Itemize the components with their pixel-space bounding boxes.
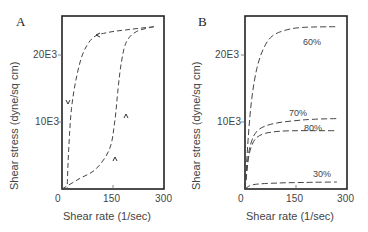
arrow-down-icon: [66, 100, 70, 104]
series-line: [245, 131, 337, 189]
series-line: [62, 27, 154, 189]
series-line: [67, 27, 154, 189]
series-line: [245, 27, 337, 189]
panel-b-curves: [245, 27, 337, 189]
chart-canvas: [0, 0, 368, 232]
series-line: [245, 182, 337, 189]
panel-b-frame: [245, 16, 347, 189]
panel-a-curves: [62, 27, 154, 189]
series-line: [245, 119, 337, 189]
arrow-up-icon: [124, 114, 128, 118]
panel-a-frame: [62, 16, 164, 189]
arrow-up-icon: [113, 157, 117, 161]
panel-a-arrow-icons: [66, 33, 128, 161]
